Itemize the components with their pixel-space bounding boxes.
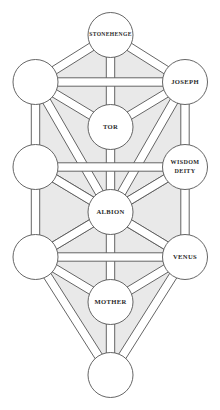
path-band-gevurah-hod xyxy=(31,188,39,236)
path-band-gevurah-chesed xyxy=(57,163,165,171)
sephira-node-netzach[interactable]: VENUS xyxy=(163,235,208,280)
path-band-binah-chokhmah xyxy=(57,78,165,86)
path-band-chesed-netzach xyxy=(181,188,189,236)
tree-of-life-diagram: STONEHENGEJOSEPHTORWISDOMDEITYALBIONVENU… xyxy=(0,0,220,410)
sephira-label: VENUS xyxy=(173,253,197,260)
sephira-node-gevurah[interactable] xyxy=(13,145,58,190)
sephira-node-hod[interactable] xyxy=(13,235,58,280)
sephira-node-daat[interactable]: TOR xyxy=(88,105,133,150)
sephira-node-keter[interactable]: STONEHENGE xyxy=(88,13,133,58)
sephira-label: STONEHENGE xyxy=(89,31,132,37)
sephira-node-tiferet[interactable]: ALBION xyxy=(88,190,133,235)
sephira-label: DEITY xyxy=(174,168,195,174)
sephira-node-binah[interactable] xyxy=(13,60,58,105)
sephira-circle[interactable] xyxy=(88,353,133,398)
sephira-label: MOTHER xyxy=(94,298,126,305)
sephira-node-chesed[interactable]: WISDOMDEITY xyxy=(163,145,208,190)
sephira-circle[interactable] xyxy=(13,235,58,280)
sephira-node-yesod[interactable]: MOTHER xyxy=(88,280,133,325)
sephira-circle[interactable] xyxy=(13,145,58,190)
path-band-yesod-malkhut xyxy=(106,323,114,354)
sephira-label: JOSEPH xyxy=(171,78,199,85)
path-band-binah-gevurah xyxy=(31,103,39,146)
sephira-label: ALBION xyxy=(96,208,124,215)
sephira-node-malkhut[interactable] xyxy=(88,353,133,398)
path-band-chokhmah-chesed xyxy=(181,103,189,146)
sephira-label: TOR xyxy=(103,123,118,130)
path-band-hod-netzach xyxy=(57,253,165,261)
sephira-label: WISDOM xyxy=(171,159,200,165)
sephira-circle[interactable] xyxy=(13,60,58,105)
tree-of-life-canvas: STONEHENGEJOSEPHTORWISDOMDEITYALBIONVENU… xyxy=(0,0,220,410)
sephira-node-chokhmah[interactable]: JOSEPH xyxy=(163,60,208,105)
